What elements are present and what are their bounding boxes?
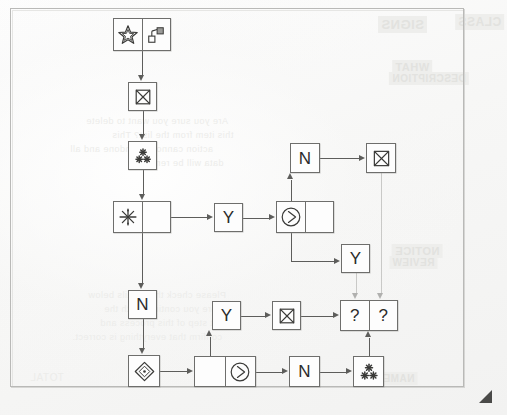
connector-line	[320, 372, 346, 373]
bowtie-join-icon	[371, 148, 392, 169]
connector-arrowhead	[187, 368, 193, 374]
flow-node[interactable]	[353, 356, 384, 387]
node-label: ?	[350, 307, 359, 324]
circle-play-icon	[229, 361, 251, 383]
node-cell-label[interactable]: N	[290, 357, 319, 386]
connector-arrowhead	[333, 312, 339, 318]
connector-arrowhead	[269, 214, 275, 220]
connector-line	[291, 233, 292, 261]
diamond-dot-icon	[133, 360, 156, 383]
connector-arrowhead	[265, 312, 271, 318]
connector-arrowhead	[359, 155, 365, 161]
flow-node[interactable]	[128, 82, 157, 111]
connector-line	[291, 261, 335, 262]
connector-line	[243, 218, 269, 219]
node-cell-label[interactable]: Y	[342, 245, 369, 272]
flow-node[interactable]: Y	[214, 203, 243, 232]
connector-line	[160, 371, 187, 372]
connector-arrowhead	[282, 368, 288, 374]
node-label: Y	[350, 250, 361, 267]
connector-line	[356, 273, 357, 293]
connector-arrowhead	[138, 283, 144, 289]
connector-line	[142, 51, 143, 75]
bowtie-join-icon	[133, 87, 153, 107]
scanned-page: SIGNSCLASSWHATDESCRIPTIONAre you sure yo…	[0, 0, 507, 415]
node-cell-icon[interactable]	[114, 202, 142, 232]
node-cell-icon[interactable]	[273, 302, 300, 329]
flow-node[interactable]	[276, 201, 334, 233]
connector-line	[171, 217, 207, 218]
connector-line	[142, 233, 143, 283]
node-cell-label[interactable]: N	[291, 144, 319, 172]
connector-arrowhead	[139, 348, 145, 354]
node-cell-icon[interactable]	[114, 19, 142, 50]
flow-node[interactable]	[366, 143, 396, 173]
connector-line	[143, 319, 144, 348]
circle-play-icon	[280, 206, 302, 228]
page-dog-ear-corner	[479, 390, 492, 403]
connector-arrowhead	[287, 173, 293, 179]
connector-line	[210, 337, 211, 357]
node-cell-empty[interactable]	[305, 202, 334, 232]
node-cell-icon[interactable]	[354, 357, 383, 386]
node-cell-label[interactable]: ?	[341, 301, 369, 330]
connector-arrowhead	[377, 293, 383, 299]
flow-node[interactable]: N	[289, 356, 320, 387]
three-asterisk-icon	[358, 361, 380, 383]
flow-node[interactable]	[113, 201, 171, 233]
flow-node[interactable]: Y	[341, 244, 370, 273]
flow-node[interactable]: Y	[212, 301, 241, 330]
sparkle-asterisk-icon	[117, 206, 139, 228]
connector-line	[143, 170, 144, 194]
node-label: ?	[379, 307, 388, 324]
flow-node[interactable]	[128, 141, 157, 170]
connector-line	[241, 316, 265, 317]
node-cell-icon[interactable]	[277, 202, 305, 232]
flow-node[interactable]	[194, 356, 256, 387]
node-cell-icon[interactable]	[129, 356, 159, 386]
flow-node[interactable]: ??	[340, 300, 398, 331]
connector-arrowhead	[139, 194, 145, 200]
connector-arrowhead	[334, 258, 340, 264]
node-label: Y	[221, 307, 232, 324]
node-cell-icon[interactable]	[225, 357, 256, 386]
node-cell-icon[interactable]	[129, 83, 156, 110]
node-label: N	[298, 363, 310, 380]
node-label: Y	[223, 209, 234, 226]
flow-node[interactable]: N	[128, 290, 157, 319]
node-cell-label[interactable]: ?	[369, 301, 398, 330]
connector-line	[381, 173, 382, 293]
connector-arrowhead	[207, 214, 213, 220]
node-cell-empty[interactable]	[195, 357, 225, 386]
connector-line	[291, 180, 292, 202]
connector-arrowhead	[139, 134, 145, 140]
connector-line	[301, 316, 333, 317]
connector-line	[320, 158, 359, 159]
node-cell-icon[interactable]	[142, 19, 171, 50]
three-asterisk-icon	[133, 146, 153, 166]
connector-line	[256, 372, 282, 373]
bowtie-join-icon	[277, 306, 297, 326]
flow-node[interactable]	[272, 301, 301, 330]
connector-line	[369, 338, 370, 357]
connector-arrowhead	[346, 368, 352, 374]
flow-node[interactable]	[113, 18, 171, 51]
node-label: N	[136, 296, 148, 313]
connector-arrowhead	[206, 330, 212, 336]
node-cell-empty[interactable]	[142, 202, 171, 232]
node-cell-label[interactable]: Y	[213, 302, 240, 329]
connector-arrowhead	[365, 331, 371, 337]
node-label: N	[299, 150, 311, 167]
connector-arrowhead	[138, 75, 144, 81]
node-cell-label[interactable]: Y	[215, 204, 242, 231]
node-cell-icon[interactable]	[367, 144, 395, 172]
connector-arrowhead	[352, 293, 358, 299]
node-cell-label[interactable]: N	[129, 291, 156, 318]
connector-line	[143, 111, 144, 134]
flow-node[interactable]	[128, 355, 160, 387]
music-note-icon	[145, 24, 167, 46]
flow-node[interactable]: N	[290, 143, 320, 173]
node-cell-icon[interactable]	[129, 142, 156, 169]
star-icon	[117, 24, 139, 46]
